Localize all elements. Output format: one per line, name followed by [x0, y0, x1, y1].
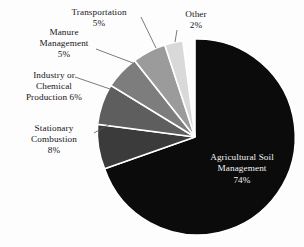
pie-label-industry-chemical-production: Industry or Chemical Production 6%	[6, 70, 102, 104]
pie-label-agricultural-soil-management: Agricultural Soil Management 74%	[196, 152, 288, 186]
pie-label-other: Other 2%	[172, 9, 220, 31]
pie-label-stationary-combustion: Stationary Combustion 8%	[10, 123, 98, 157]
pie-chart-figure: Transportation 5% Other 2% Manure Manage…	[0, 0, 304, 247]
leader-line-transportation	[141, 17, 156, 48]
leader-line-other	[175, 30, 177, 42]
pie-label-manure-management: Manure Management 5%	[21, 27, 107, 61]
